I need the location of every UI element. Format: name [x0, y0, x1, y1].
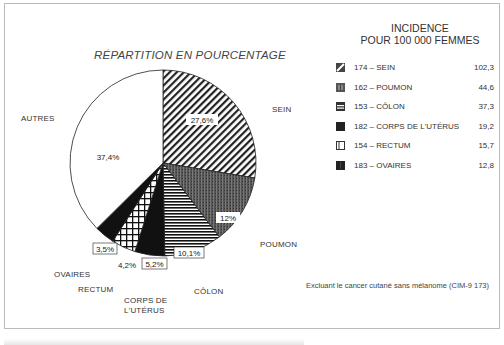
diagonal-hatch-swatch-icon — [336, 63, 345, 72]
solid-black-swatch-icon — [336, 161, 345, 170]
horizontal-lines-swatch-icon — [336, 102, 345, 111]
value-colon: 10,1% — [178, 249, 201, 258]
legend-item-uterus: 182 – CORPS DE L'UTÉRUS 19,2 — [336, 119, 494, 139]
legend-item-rectum: 154 – RECTUM 15,7 — [336, 138, 494, 158]
legend-item-colon: 153 – CÔLON 37,3 — [336, 99, 494, 119]
value-ovaires: 3,5% — [96, 245, 114, 254]
label-rectum: RECTUM — [78, 285, 113, 294]
legend-item-poumon: 162 – POUMON 44,6 — [336, 80, 494, 100]
label-colon: CÔLON — [194, 287, 223, 296]
legend-title: INCIDENCE POUR 100 000 FEMMES — [320, 22, 504, 46]
value-uterus: 5,2% — [145, 260, 163, 269]
legend-item-ovaires: 183 – OVAIRES 12,8 — [336, 158, 494, 178]
label-ovaires: OVAIRES — [54, 270, 90, 279]
value-sein: 27,6% — [191, 116, 214, 125]
footnote: Excluant le cancer cutané sans mélanome … — [306, 281, 489, 290]
value-rectum: 4,2% — [118, 261, 136, 270]
label-poumon: POUMON — [260, 240, 297, 249]
stipple-swatch-icon — [336, 83, 345, 92]
crosshatch-swatch-icon — [336, 141, 345, 150]
label-sein: SEIN — [272, 105, 291, 114]
legend-item-sein: 174 – SEIN 102,3 — [336, 60, 494, 80]
solid-black-swatch-icon — [336, 122, 345, 131]
label-uterus-2: L'UTÉRUS — [124, 306, 164, 315]
legend: 174 – SEIN 102,3 162 – POUMON 44,6 153 –… — [336, 60, 494, 177]
label-autres: AUTRES — [21, 114, 55, 123]
value-autres: 37,4% — [97, 153, 120, 162]
value-poumon: 12% — [220, 214, 236, 223]
clipped-caption — [4, 339, 304, 345]
label-uterus-1: CORPS DE — [124, 296, 167, 305]
